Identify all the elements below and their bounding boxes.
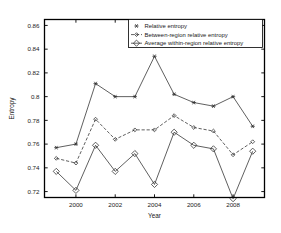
series-markers-1 — [54, 114, 254, 165]
y-tick-label: 0.78 — [27, 117, 40, 124]
legend-label-2: Average within-region relative entropy — [145, 40, 244, 46]
entropy-line-chart: 0.720.740.760.780.80.820.840.86 20002002… — [0, 0, 281, 233]
series-line-2 — [56, 132, 252, 198]
x-axis-title: Year — [148, 212, 162, 219]
x-tick-label: 2004 — [148, 201, 162, 208]
series-markers-2 — [53, 129, 256, 202]
chart-figure: 0.720.740.760.780.80.820.840.86 20002002… — [0, 0, 281, 233]
series-line-0 — [56, 56, 252, 147]
legend-label-1: Between-region relative entropy — [145, 32, 228, 38]
y-tick-label: 0.72 — [27, 188, 40, 195]
y-tick-label: 0.8 — [31, 93, 40, 100]
y-axis-ticks — [45, 25, 265, 191]
y-axis-tick-labels: 0.720.740.760.780.80.820.840.86 — [27, 22, 40, 195]
x-tick-label: 2002 — [108, 201, 122, 208]
x-tick-label: 2000 — [69, 201, 83, 208]
series-markers-0 — [54, 55, 255, 150]
y-tick-label: 0.84 — [27, 45, 40, 52]
y-tick-label: 0.86 — [27, 22, 40, 29]
y-axis-title: Entropy — [8, 97, 16, 120]
legend-label-0: Relative entropy — [145, 23, 188, 29]
y-tick-label: 0.76 — [27, 140, 40, 147]
x-axis-tick-labels: 20002002200420062008 — [69, 201, 240, 208]
y-tick-label: 0.74 — [27, 164, 40, 171]
y-tick-label: 0.82 — [27, 69, 40, 76]
series-line-1 — [56, 116, 252, 163]
chart-legend: Relative entropyBetween-region relative … — [129, 20, 263, 48]
x-tick-label: 2006 — [187, 201, 201, 208]
